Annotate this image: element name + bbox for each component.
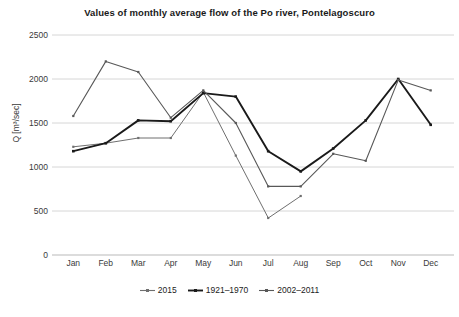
data-point — [202, 92, 205, 95]
data-point — [72, 115, 74, 117]
data-point — [332, 147, 335, 150]
data-point — [299, 170, 302, 173]
plot-area — [0, 0, 459, 317]
data-point — [169, 120, 172, 123]
legend-marker-icon — [259, 286, 274, 295]
data-point — [332, 153, 334, 155]
data-point — [235, 155, 237, 157]
legend-marker-icon — [140, 286, 155, 295]
data-point — [397, 79, 399, 81]
data-point — [430, 89, 432, 91]
legend-item[interactable]: 1921–1970 — [188, 285, 249, 295]
data-point — [235, 122, 237, 124]
data-point — [105, 60, 107, 62]
data-point — [202, 89, 204, 91]
data-point — [429, 124, 432, 127]
data-point — [137, 137, 139, 139]
data-point — [105, 142, 108, 145]
chart-container: Values of monthly average flow of the Po… — [0, 0, 459, 317]
data-point — [234, 95, 237, 98]
data-point — [137, 71, 139, 73]
legend-item[interactable]: 2015 — [140, 285, 177, 295]
data-point — [170, 117, 172, 119]
data-point — [300, 195, 302, 197]
data-point — [300, 185, 302, 187]
data-point — [267, 150, 270, 153]
series-line — [73, 92, 300, 218]
legend-label: 2002–2011 — [277, 285, 319, 295]
legend-marker-icon — [188, 286, 203, 295]
series-line — [73, 79, 431, 171]
data-point — [137, 119, 140, 122]
legend-label: 2015 — [158, 285, 177, 295]
legend-item[interactable]: 2002–2011 — [259, 285, 319, 295]
chart-legend: 20151921–19702002–2011 — [0, 285, 459, 295]
data-point — [267, 217, 269, 219]
data-point — [170, 137, 172, 139]
data-point — [267, 185, 269, 187]
legend-label: 1921–1970 — [206, 285, 249, 295]
data-point — [365, 160, 367, 162]
data-point — [72, 150, 75, 153]
data-point — [364, 119, 367, 122]
data-point — [72, 146, 74, 148]
